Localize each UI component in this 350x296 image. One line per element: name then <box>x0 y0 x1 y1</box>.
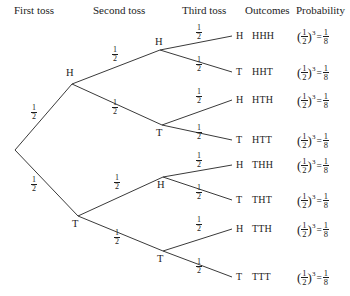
outcome-HTT: HTT <box>252 134 272 145</box>
paren-close: ) <box>308 193 312 208</box>
branch-T-to-TH <box>78 177 163 216</box>
edge-frac-den: 2 <box>114 183 120 191</box>
node-label-HH: H <box>155 36 163 47</box>
outcome-HHH: HHH <box>252 30 274 41</box>
paren-close: ) <box>308 158 312 173</box>
edge-label-T-TH: 12 <box>114 174 120 192</box>
probability-THH: (12)3=18 <box>297 157 329 176</box>
branch-root-to-H <box>15 84 72 150</box>
edge-frac-den: 2 <box>196 97 202 105</box>
prob-result-den: 8 <box>323 230 329 239</box>
prob-equals: = <box>315 225 322 235</box>
leaf-letter-HTT: T <box>236 134 242 145</box>
edge-label-H-HH: 12 <box>112 46 118 64</box>
branch-root-to-T <box>15 150 78 216</box>
prob-base-den: 2 <box>301 37 307 46</box>
prob-base-den: 2 <box>301 230 307 239</box>
outcome-HHT: HHT <box>252 66 273 77</box>
edge-frac-den: 2 <box>112 55 118 63</box>
paren-close: ) <box>308 29 312 44</box>
edge-label-T-TT: 12 <box>114 229 120 247</box>
edge-label-TT-TTT: 12 <box>196 258 202 276</box>
prob-equals: = <box>315 96 322 106</box>
prob-base-den: 2 <box>301 278 307 287</box>
edge-frac-den: 2 <box>196 225 202 233</box>
prob-equals: = <box>315 196 322 206</box>
outcome-TTH: TTH <box>252 223 272 234</box>
probability-HHT: (12)3=18 <box>297 64 329 83</box>
branch-T-to-TT <box>78 216 163 251</box>
probability-TTT: (12)3=18 <box>297 269 329 288</box>
edge-label-HH-HHT: 12 <box>196 56 202 74</box>
edge-frac-den: 2 <box>196 193 202 201</box>
node-label-T: T <box>72 218 78 229</box>
leaf-letter-HHH: H <box>236 30 243 41</box>
edge-frac-den: 2 <box>112 108 118 116</box>
leaf-letter-TTT: T <box>236 271 242 282</box>
node-label-TH: H <box>157 179 165 190</box>
probability-HHH: (12)3=18 <box>297 28 329 47</box>
edge-frac-den: 2 <box>31 113 37 121</box>
leaf-letter-HTH: H <box>236 94 243 105</box>
edge-label-HT-HTT: 12 <box>196 124 202 142</box>
paren-close: ) <box>308 65 312 80</box>
edge-label-HT-HTH: 12 <box>196 88 202 106</box>
edge-frac-den: 2 <box>196 161 202 169</box>
edge-frac-den: 2 <box>114 238 120 246</box>
edge-frac-den: 2 <box>196 267 202 275</box>
node-label-HT: T <box>156 127 162 138</box>
outcome-TTT: TTT <box>252 271 271 282</box>
prob-equals: = <box>315 136 322 146</box>
probability-HTT: (12)3=18 <box>297 132 329 151</box>
probability-tree-diagram: First toss Second toss Third toss Outcom… <box>0 0 350 296</box>
paren-close: ) <box>308 222 312 237</box>
prob-result-den: 8 <box>323 201 329 210</box>
prob-equals: = <box>315 273 322 283</box>
probability-TTH: (12)3=18 <box>297 221 329 240</box>
prob-result-den: 8 <box>323 73 329 82</box>
edge-label-TH-THH: 12 <box>196 152 202 170</box>
prob-base-den: 2 <box>301 141 307 150</box>
edge-frac-den: 2 <box>31 185 37 193</box>
paren-close: ) <box>308 93 312 108</box>
edge-label-TT-TTH: 12 <box>196 216 202 234</box>
leaf-letter-TTH: H <box>236 223 243 234</box>
edge-frac-den: 2 <box>196 65 202 73</box>
node-label-TT: T <box>157 253 163 264</box>
edge-label-H-HT: 12 <box>112 99 118 117</box>
edge-frac-den: 2 <box>196 133 202 141</box>
edge-label-TH-THT: 12 <box>196 184 202 202</box>
prob-base-den: 2 <box>301 201 307 210</box>
probability-HTH: (12)3=18 <box>297 92 329 111</box>
prob-result-den: 8 <box>323 101 329 110</box>
outcome-THH: THH <box>252 159 273 170</box>
paren-close: ) <box>308 133 312 148</box>
prob-result-den: 8 <box>323 166 329 175</box>
prob-result-den: 8 <box>323 37 329 46</box>
outcome-HTH: HTH <box>252 94 273 105</box>
node-label-H: H <box>66 67 74 78</box>
leaf-letter-HHT: T <box>236 66 242 77</box>
leaf-letter-THH: H <box>236 159 243 170</box>
prob-base-den: 2 <box>301 73 307 82</box>
edge-label-root-H: 12 <box>31 104 37 122</box>
edge-label-HH-HHH: 12 <box>196 24 202 42</box>
paren-close: ) <box>308 270 312 285</box>
probability-THT: (12)3=18 <box>297 192 329 211</box>
outcome-THT: THT <box>252 194 272 205</box>
prob-equals: = <box>315 68 322 78</box>
prob-result-den: 8 <box>323 141 329 150</box>
prob-equals: = <box>315 32 322 42</box>
leaf-letter-THT: T <box>236 194 242 205</box>
edge-label-root-T: 12 <box>31 176 37 194</box>
prob-base-den: 2 <box>301 166 307 175</box>
prob-equals: = <box>315 161 322 171</box>
edge-frac-den: 2 <box>196 33 202 41</box>
prob-result-den: 8 <box>323 278 329 287</box>
prob-base-den: 2 <box>301 101 307 110</box>
